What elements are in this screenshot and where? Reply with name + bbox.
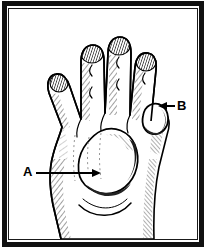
annotation-label-a: A	[23, 165, 32, 178]
annotation-label-b: B	[177, 99, 186, 112]
knuckle-nodule-b	[142, 104, 168, 135]
illustration-canvas	[9, 9, 197, 239]
hand-dorsal-illustration	[9, 9, 197, 239]
figure-root: A B	[0, 0, 206, 249]
